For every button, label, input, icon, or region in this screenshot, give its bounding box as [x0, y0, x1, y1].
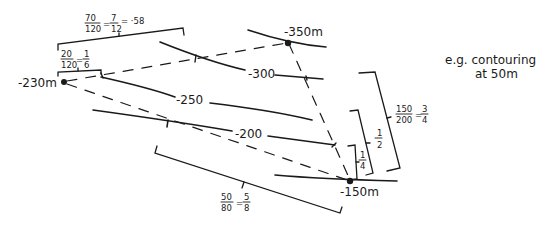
- svg-text:1: 1: [360, 150, 365, 160]
- svg-text:=: =: [103, 19, 110, 29]
- svg-text:150: 150: [396, 104, 412, 114]
- tick-mark: [167, 120, 168, 127]
- contour-300-left: [160, 42, 245, 70]
- svg-text:1: 1: [377, 128, 382, 138]
- svg-text:120: 120: [85, 24, 101, 34]
- fraction-right-outer: 150 200 = 3 4: [396, 104, 428, 125]
- spot-height-150-label: -150m: [340, 185, 379, 199]
- bracket-tick: [387, 117, 391, 118]
- svg-text:4: 4: [422, 115, 427, 125]
- contour-250-right: [210, 103, 312, 120]
- svg-text:50: 50: [221, 192, 232, 202]
- diagram-svg: -230m -350m -150m -300 -250 -200 70 120 …: [0, 0, 551, 226]
- svg-text:5: 5: [244, 192, 249, 202]
- bracket-top-short: [58, 70, 101, 76]
- svg-text:20: 20: [61, 49, 72, 59]
- svg-text:6: 6: [84, 60, 89, 70]
- contour-250-left: [101, 77, 175, 97]
- fraction-right-inner: 1 4: [359, 150, 366, 171]
- spot-height-230-label: -230m: [18, 76, 57, 90]
- contour-interpolation-diagram: -230m -350m -150m -300 -250 -200 70 120 …: [0, 0, 551, 226]
- fraction-top-long: 70 120 = 7 12 = ·58: [85, 13, 144, 34]
- fraction-bottom: 50 80 = 5 8: [221, 192, 250, 213]
- contour-200-right: [268, 136, 335, 145]
- spot-height-150-dot: [347, 178, 353, 184]
- svg-text:1: 1: [84, 49, 89, 59]
- svg-text:4: 4: [360, 161, 365, 171]
- contour-label-250: -250: [176, 93, 203, 107]
- svg-text:80: 80: [221, 203, 232, 213]
- svg-text:= ·58: = ·58: [121, 16, 144, 26]
- svg-text:120: 120: [61, 60, 77, 70]
- dashed-line-230-to-150: [67, 84, 350, 181]
- svg-text:2: 2: [377, 140, 382, 150]
- svg-text:=: =: [236, 198, 243, 208]
- dashed-line-350-to-150: [289, 44, 350, 180]
- svg-text:70: 70: [85, 13, 96, 23]
- contour-label-300: -300: [248, 67, 275, 81]
- svg-text:200: 200: [396, 115, 412, 125]
- spot-height-350-dot: [285, 40, 291, 46]
- tick-mark: [306, 76, 307, 80]
- contour-300-right: [275, 75, 323, 79]
- tick-mark: [195, 55, 196, 62]
- spot-height-350-label: -350m: [284, 25, 323, 39]
- svg-text:7: 7: [111, 13, 116, 23]
- fraction-right-mid: 1 2: [375, 128, 382, 150]
- note-line-2: at 50m: [475, 67, 518, 81]
- spot-height-230-dot: [61, 79, 67, 85]
- contour-label-200: -200: [235, 127, 262, 141]
- bracket-tick: [242, 182, 244, 188]
- svg-text:=: =: [76, 55, 83, 65]
- note-line-1: e.g. contouring: [445, 53, 536, 67]
- svg-text:8: 8: [244, 203, 249, 213]
- fraction-top-short: 20 120 = 1 6: [61, 49, 89, 70]
- svg-text:3: 3: [422, 104, 427, 114]
- contour-200-left: [93, 110, 232, 131]
- contour-150: [275, 175, 397, 181]
